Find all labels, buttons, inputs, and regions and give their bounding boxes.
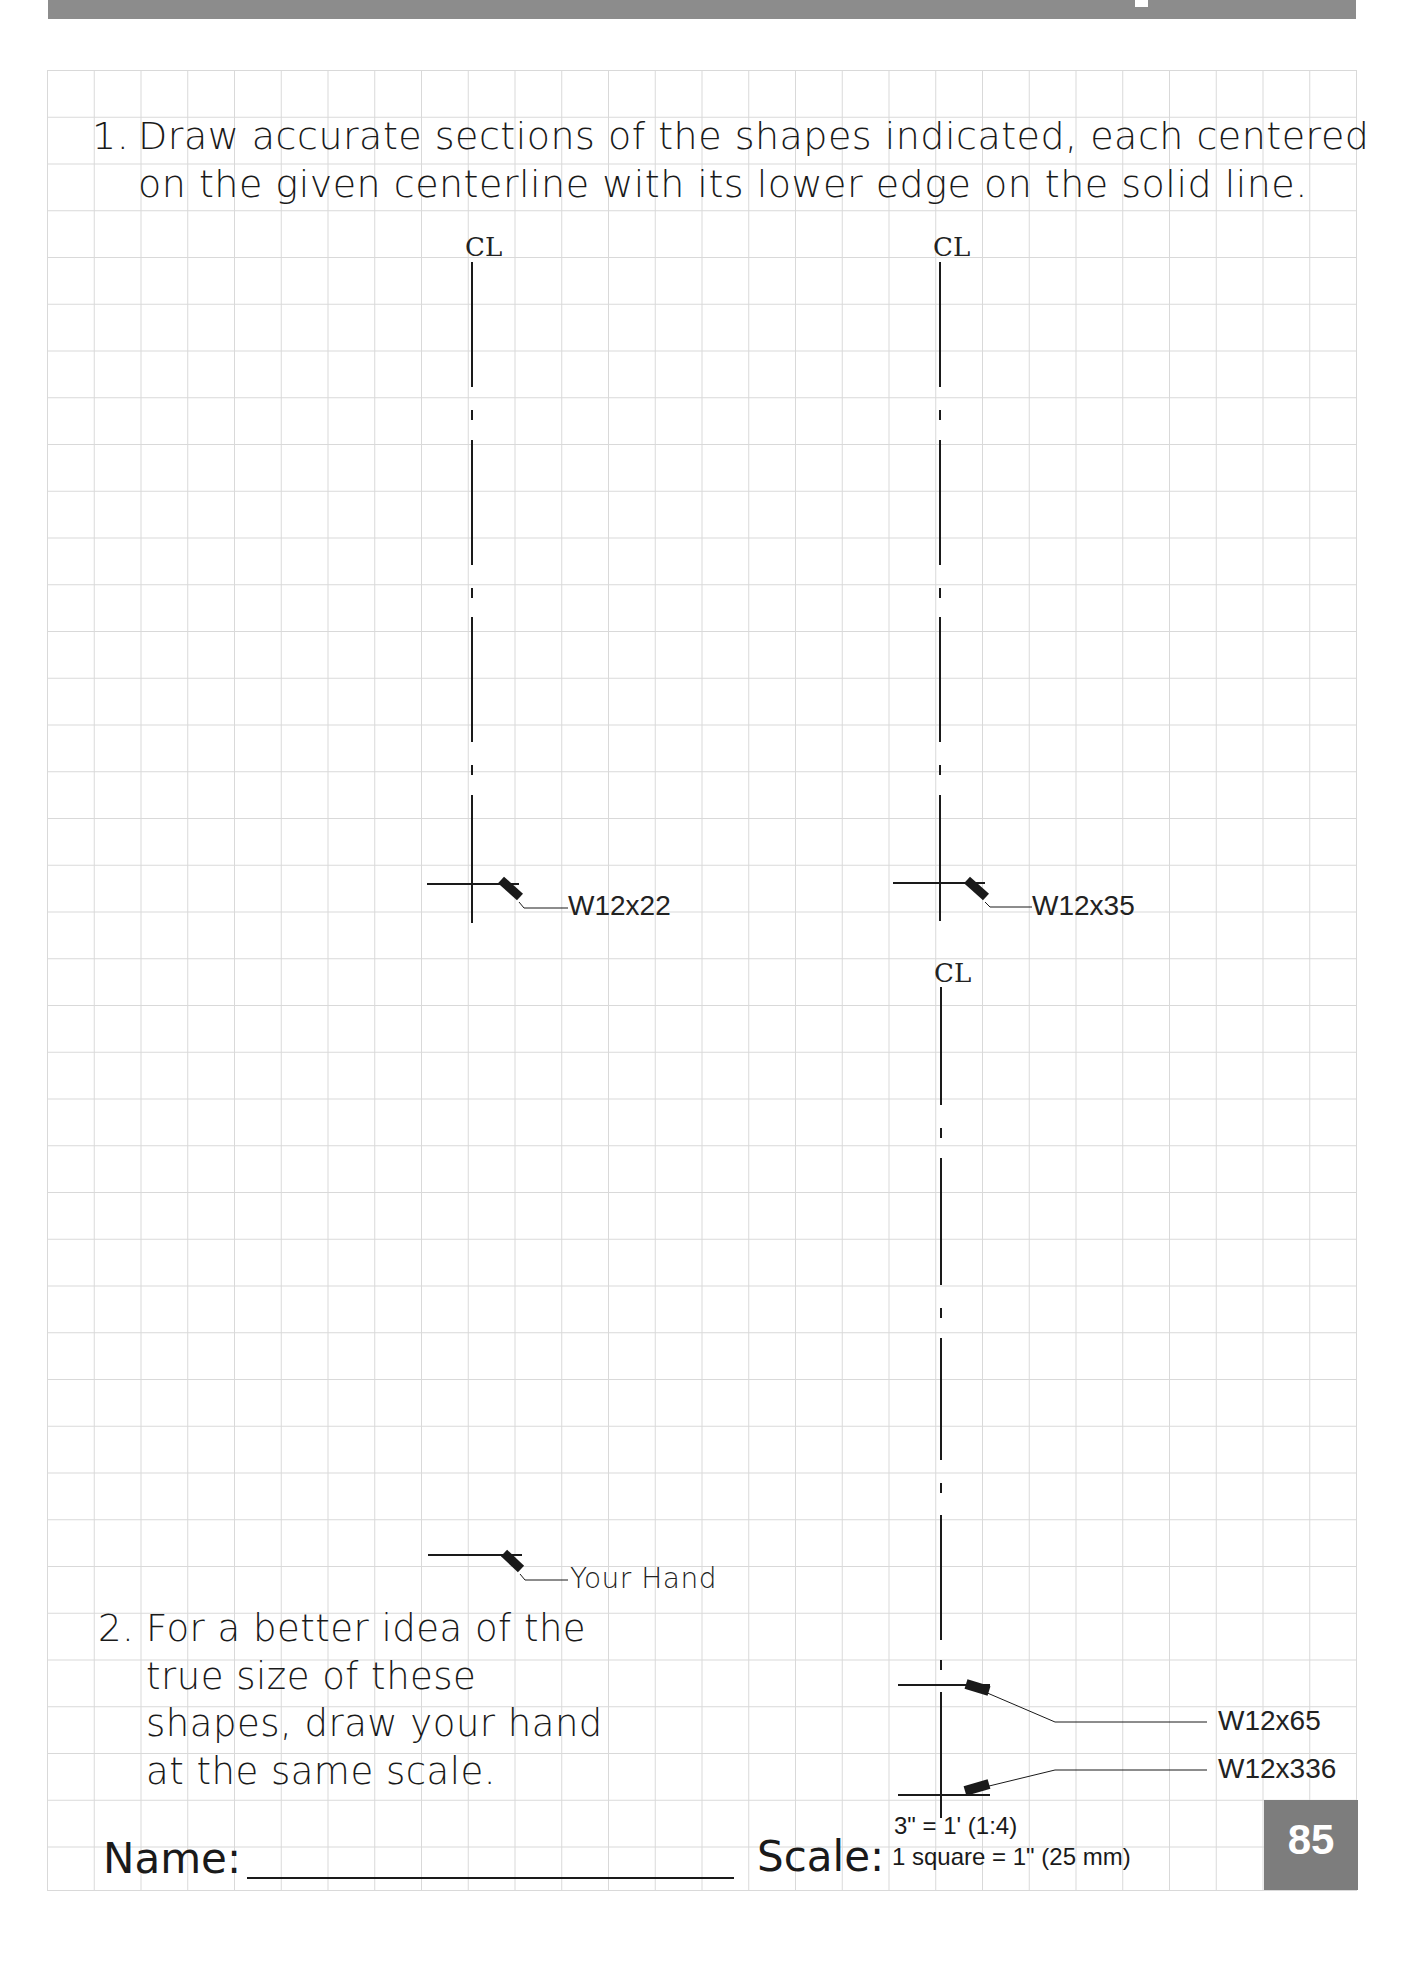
centerline-2: [893, 262, 1032, 921]
page-number-box: 85: [1264, 1800, 1358, 1890]
scale-ratio: 3" = 1' (1:4): [894, 1812, 1017, 1840]
question-2: 2.For a better idea of the true size of …: [98, 1605, 603, 1795]
scale-label: Scale:: [757, 1832, 884, 1881]
question-2-line-3: shapes, draw your hand: [98, 1700, 603, 1748]
question-2-line-2: true size of these: [98, 1653, 603, 1701]
page-number: 85: [1264, 1816, 1358, 1864]
centerline-2-symbol: CL: [933, 232, 970, 262]
centerline-3-symbol: CL: [934, 958, 971, 988]
centerline-1: [427, 262, 568, 923]
scale-square-size: 1 square = 1" (25 mm): [892, 1843, 1131, 1871]
hand-label: Your Hand: [570, 1562, 717, 1595]
centerline-3: [898, 987, 1207, 1818]
shape-label-w12x22: W12x22: [568, 890, 671, 922]
shape-label-w12x35: W12x35: [1032, 890, 1135, 922]
question-2-number: 2.: [98, 1605, 146, 1653]
name-input-line[interactable]: [247, 1877, 734, 1879]
hand-reference-line: [428, 1553, 568, 1580]
question-2-line-1: For a better idea of the: [146, 1607, 586, 1650]
name-label: Name:: [103, 1834, 241, 1883]
shape-label-w12x336: W12x336: [1218, 1753, 1336, 1785]
question-2-line-4: at the same scale.: [98, 1748, 603, 1796]
centerline-1-symbol: CL: [465, 232, 502, 262]
shape-label-w12x65: W12x65: [1218, 1705, 1321, 1737]
